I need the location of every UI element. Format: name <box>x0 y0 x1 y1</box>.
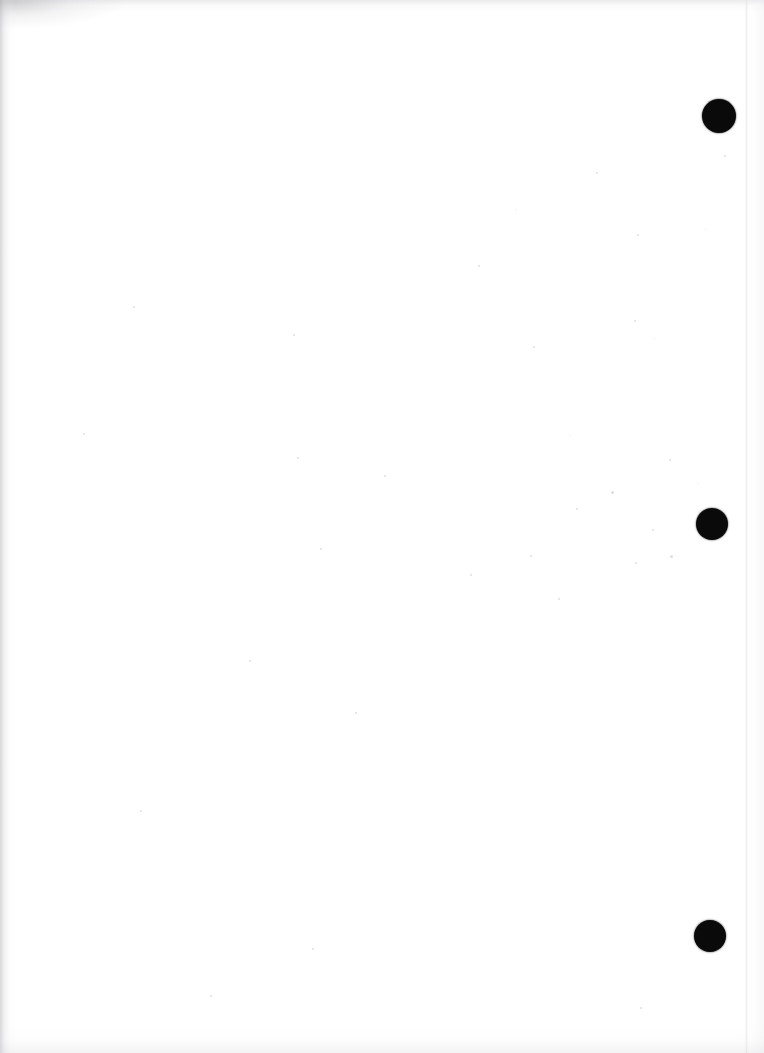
left-edge-shadow <box>0 0 16 1053</box>
scanner-speck <box>570 435 571 436</box>
right-page-edge-seam <box>745 0 748 1053</box>
scanner-speck <box>558 598 560 600</box>
scanner-speck <box>83 433 85 435</box>
registration-dot-3 <box>694 920 726 952</box>
scanner-speck <box>640 1007 642 1009</box>
scanner-speck <box>210 995 212 997</box>
top-left-smudge-artifact <box>0 0 150 34</box>
scanner-speck <box>320 548 322 550</box>
scanner-speck <box>133 306 135 308</box>
scanner-speck <box>478 265 480 267</box>
scanner-speck <box>293 334 295 336</box>
bottom-scan-artifact <box>0 1027 764 1053</box>
paper-background <box>0 0 764 1053</box>
scanned-page <box>0 0 764 1053</box>
scanner-speck <box>576 508 578 510</box>
right-edge-shadow <box>740 0 764 1053</box>
scanner-speck <box>312 948 314 950</box>
scanner-speck <box>654 338 655 339</box>
scanner-speck <box>635 562 637 564</box>
scanner-speck <box>530 555 532 557</box>
scanner-speck <box>705 229 706 230</box>
scanner-speck <box>669 459 671 461</box>
scanner-speck <box>634 320 636 322</box>
scanner-speck <box>724 155 726 157</box>
scanner-speck <box>516 209 517 210</box>
scanner-speck <box>670 555 673 558</box>
scanner-speck <box>652 529 654 531</box>
scanner-speck <box>533 346 535 348</box>
scanner-speck <box>355 712 357 714</box>
registration-dot-1 <box>702 99 736 133</box>
scanner-speck <box>384 475 386 477</box>
scanner-speck <box>611 491 614 494</box>
registration-dot-2 <box>696 508 728 540</box>
scanner-speck <box>249 660 251 662</box>
scanner-speck <box>297 457 299 459</box>
scanner-speck <box>698 483 699 484</box>
scanner-speck <box>470 574 472 576</box>
scanner-speck <box>637 234 639 236</box>
scanner-speck <box>596 172 598 174</box>
scanner-speck <box>140 810 142 812</box>
